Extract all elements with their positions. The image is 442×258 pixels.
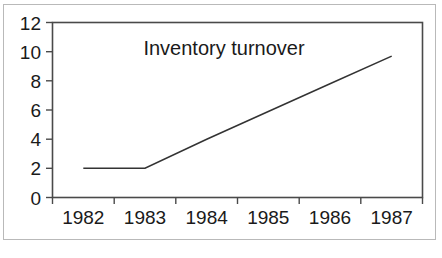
y-axis-ticks <box>46 23 53 198</box>
y-tick-label-10: 10 <box>0 42 41 61</box>
y-tick-label-4: 4 <box>0 130 41 149</box>
x-tick-label-1986: 1986 <box>309 208 351 227</box>
chart-title: Inventory turnover <box>143 37 304 60</box>
y-tick-label-8: 8 <box>0 71 41 90</box>
x-tick-label-1982: 1982 <box>62 208 104 227</box>
x-tick-label-1985: 1985 <box>247 208 289 227</box>
x-tick-label-1984: 1984 <box>186 208 228 227</box>
line-chart: 0 2 4 6 8 10 12 1982 1983 1984 1985 1986… <box>0 0 442 258</box>
y-tick-label-0: 0 <box>0 188 41 207</box>
x-axis-ticks <box>53 198 423 205</box>
data-line-inventory-turnover <box>83 56 391 168</box>
y-tick-label-6: 6 <box>0 101 41 120</box>
x-tick-label-1983: 1983 <box>124 208 166 227</box>
y-tick-label-2: 2 <box>0 159 41 178</box>
x-tick-label-1987: 1987 <box>371 208 413 227</box>
chart-screenshot: 0 2 4 6 8 10 12 1982 1983 1984 1985 1986… <box>0 0 442 258</box>
y-tick-label-12: 12 <box>0 13 41 32</box>
